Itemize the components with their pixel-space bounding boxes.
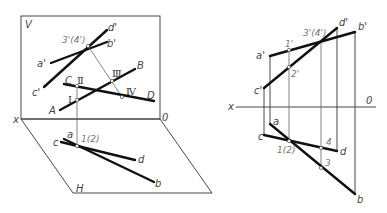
label-a-prime: a'	[256, 50, 265, 61]
label-a: a	[273, 116, 279, 127]
point-IV	[120, 95, 123, 98]
left-pictorial-figure: V H x 0 a' b' c' d' 3'(4') A B C D Ⅰ Ⅱ Ⅲ…	[12, 16, 212, 194]
label-roman-IV: Ⅳ	[126, 86, 137, 97]
point-1-2	[287, 139, 290, 142]
point-3	[319, 166, 322, 169]
label-roman-I: Ⅰ	[68, 94, 72, 105]
projection-diagram: V H x 0 a' b' c' d' 3'(4') A B C D Ⅰ Ⅱ Ⅲ…	[0, 0, 387, 213]
label-3-4-prime: 3'(4')	[62, 35, 85, 45]
point-4	[319, 146, 322, 149]
label-1-2: 1(2)	[277, 145, 295, 155]
point-3-4-prime	[86, 44, 89, 47]
label-d: d	[138, 154, 145, 165]
line-ab-v-projection	[51, 42, 107, 63]
label-b: b	[155, 178, 161, 189]
label-b-prime: b'	[107, 38, 116, 49]
point-1-2	[75, 144, 78, 147]
label-c-prime: c'	[254, 85, 262, 96]
label-a-prime: a'	[37, 58, 46, 69]
label-4: 4	[326, 137, 332, 147]
label-3: 3	[325, 158, 331, 168]
label-c: c	[53, 137, 59, 148]
label-D: D	[147, 90, 155, 101]
axis-o-label: 0	[162, 112, 168, 123]
line-ab-h	[270, 124, 355, 194]
label-1-prime: 1'	[285, 39, 293, 49]
label-1-2: 1(2)	[81, 134, 99, 144]
label-a: a	[67, 129, 73, 140]
label-b: b	[357, 194, 363, 205]
label-d: d	[340, 146, 347, 157]
axis-x-label: x	[227, 101, 234, 112]
label-roman-II: Ⅱ	[77, 75, 84, 86]
label-d-prime: d'	[108, 22, 117, 33]
label-roman-III: Ⅲ	[112, 68, 122, 79]
label-b-prime: b'	[358, 21, 367, 32]
point-I	[75, 98, 78, 101]
label-A: A	[48, 105, 56, 116]
label-3-4-prime: 3'(4')	[303, 28, 326, 38]
label-c-prime: c'	[32, 87, 40, 98]
label-d-prime: d'	[339, 17, 348, 28]
plane-h-label: H	[76, 183, 84, 194]
label-C: C	[65, 75, 72, 86]
axis-o-label: 0	[366, 95, 372, 106]
point-III	[110, 79, 113, 82]
axis-x-label: x	[12, 114, 19, 125]
right-orthographic-figure: x 0 a' b' c' d' 1' 2' 3'(4') a b c d 1(2…	[227, 17, 376, 205]
label-2-prime: 2'	[291, 69, 299, 79]
label-c: c	[258, 131, 264, 142]
plane-v-label: V	[25, 19, 33, 30]
line-cd-h-projection	[61, 142, 135, 160]
label-B: B	[137, 60, 144, 71]
